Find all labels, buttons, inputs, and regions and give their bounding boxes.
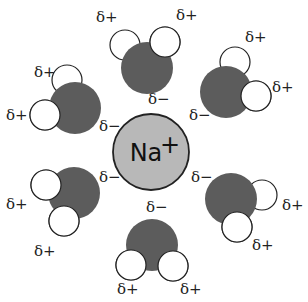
partial-negative-label: δ−	[191, 168, 213, 186]
partial-positive-label: δ+	[245, 28, 267, 46]
hydrogen-atom	[158, 251, 188, 281]
ion-label: Na	[130, 139, 163, 167]
partial-positive-label: δ+	[6, 195, 28, 213]
partial-positive-label: δ+	[252, 236, 274, 254]
partial-negative-label: δ−	[99, 117, 121, 135]
hydration-diagram: δ+δ+δ−δ+δ+δ−δ+δ+δ−δ+δ+δ−δ+δ+δ−δ+δ+δ−Na+	[0, 0, 308, 302]
water-molecule-bottom-right: δ+δ+δ−	[191, 168, 304, 254]
hydrogen-atom	[49, 206, 79, 236]
partial-positive-label: δ+	[180, 280, 202, 298]
water-molecule-top-right: δ+δ+δ−	[189, 28, 294, 124]
ion-charge: +	[160, 131, 180, 159]
hydrogen-atom	[241, 81, 271, 111]
sodium-ion: Na+	[113, 114, 189, 190]
water-molecule-top: δ+δ+δ−	[96, 6, 198, 108]
water-molecule-bottom-left: δ+δ+δ−	[6, 167, 121, 260]
partial-positive-label: δ+	[117, 280, 139, 298]
hydrogen-atom	[116, 250, 146, 280]
partial-positive-label: δ+	[34, 242, 56, 260]
partial-negative-label: δ−	[189, 106, 211, 124]
hydrogen-atom	[30, 100, 60, 130]
partial-positive-label: δ+	[176, 6, 198, 24]
partial-positive-label: δ+	[282, 196, 304, 214]
hydrogen-atom	[31, 170, 61, 200]
partial-positive-label: δ+	[272, 78, 294, 96]
hydrogen-atom	[150, 27, 180, 57]
water-molecule-top-left: δ+δ+δ−	[6, 63, 121, 135]
hydrogen-atom	[222, 212, 252, 242]
partial-positive-label: δ+	[96, 8, 118, 26]
water-molecule-bottom: δ+δ+δ−	[116, 198, 202, 298]
diagram-canvas: δ+δ+δ−δ+δ+δ−δ+δ+δ−δ+δ+δ−δ+δ+δ−δ+δ+δ−Na+	[0, 0, 308, 302]
partial-negative-label: δ−	[146, 198, 168, 216]
partial-negative-label: δ−	[148, 90, 170, 108]
partial-positive-label: δ+	[6, 106, 28, 124]
partial-positive-label: δ+	[34, 63, 56, 81]
